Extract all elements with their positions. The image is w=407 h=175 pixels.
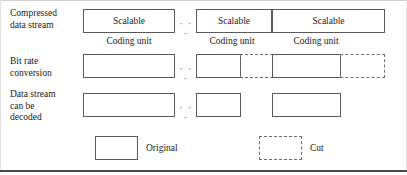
figure-frame-top	[0, 0, 407, 1]
legend-label-cut: Cut	[310, 143, 324, 154]
diagram-figure: Compressed data stream Scalable · · · Sc…	[0, 0, 407, 175]
segment-dec1-original	[83, 93, 175, 117]
segment-cu2-scalable-text: Scalable	[197, 16, 271, 27]
segment-brc3-cut	[340, 54, 385, 78]
segment-brc2-cut	[240, 54, 273, 78]
row2-ellipsis: · · ·	[176, 64, 196, 84]
row-label-data-stream-can-be-decoded: Data stream can be decoded	[10, 89, 82, 124]
segment-cu1-scalable-text: Scalable	[84, 16, 174, 27]
figure-frame-bottom	[0, 170, 407, 172]
segment-brc2-original	[196, 54, 241, 78]
segment-cu3-scalable-text: Scalable	[273, 16, 384, 27]
segment-cu1-scalable: Scalable	[83, 9, 175, 33]
unit-label-1: Coding unit	[83, 36, 175, 47]
segment-cu3-scalable: Scalable	[272, 9, 385, 33]
figure-frame-left	[0, 0, 1, 171]
row-label-compressed-data-stream: Compressed data stream	[10, 8, 82, 31]
segment-dec2-original	[196, 93, 241, 117]
segment-cu2-scalable: Scalable	[196, 9, 272, 33]
legend-swatch-cut	[259, 136, 302, 160]
row3-ellipsis: · · ·	[176, 103, 196, 123]
unit-label-2: Coding unit	[192, 36, 272, 47]
unit-label-3: Coding unit	[276, 36, 356, 47]
segment-brc3-original	[272, 54, 341, 78]
legend-swatch-original	[95, 136, 138, 160]
legend-label-original: Original	[146, 143, 178, 154]
row-label-bit-rate-conversion: Bit rate conversion	[10, 56, 82, 79]
segment-brc1-original	[83, 54, 175, 78]
segment-dec3-original	[272, 93, 341, 117]
